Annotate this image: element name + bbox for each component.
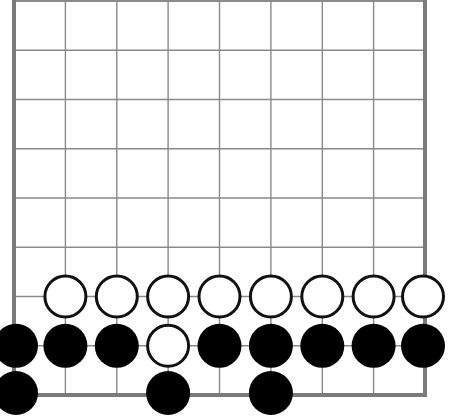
black-stone: [43, 324, 87, 368]
black-stone: [146, 371, 190, 415]
white-stone: [250, 276, 291, 317]
white-stone: [148, 325, 189, 366]
white-stone: [96, 276, 137, 317]
white-stone: [302, 276, 343, 317]
black-stone: [249, 371, 293, 415]
black-stone: [300, 324, 344, 368]
black-stone: [401, 324, 445, 368]
go-board: [0, 0, 452, 417]
black-stone: [95, 324, 139, 368]
black-stone: [0, 324, 38, 368]
black-stone: [0, 371, 38, 415]
white-stone: [403, 276, 444, 317]
black-stone: [249, 324, 293, 368]
white-stone: [353, 276, 394, 317]
white-stone: [199, 276, 240, 317]
white-stone: [45, 276, 86, 317]
white-stone: [148, 276, 189, 317]
black-stone: [352, 324, 396, 368]
black-stone: [198, 324, 242, 368]
